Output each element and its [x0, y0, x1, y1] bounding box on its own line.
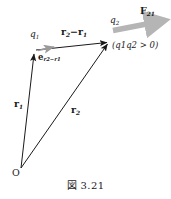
position-vector-2-arrow: [21, 44, 108, 168]
position-vector-2-label: r2: [71, 105, 80, 115]
position-vector-1-arrow: [21, 54, 34, 168]
unit-vector-label: er2−r1: [38, 53, 61, 62]
position-vector-1-label: r1: [14, 99, 23, 109]
charge-condition-label: (q1q2 > 0): [112, 41, 158, 50]
force-vector-arrow: [113, 22, 157, 31]
separation-vector-label: r2−r1: [61, 27, 87, 37]
force-vector-label: F21: [140, 6, 155, 16]
charge-2-label: q2: [110, 16, 119, 25]
figure-container: q1 q2 r1 r2 r2−r1 er2−r1 F21 (q1q2 > 0) …: [0, 0, 171, 199]
charge-1-label: q1: [30, 30, 39, 39]
figure-caption: 図 3.21: [0, 177, 171, 192]
